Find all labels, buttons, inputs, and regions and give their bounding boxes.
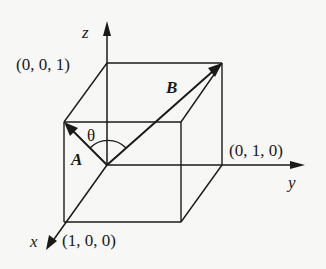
axes bbox=[46, 21, 305, 250]
point-label-z-unit: (0, 0, 1) bbox=[16, 55, 70, 74]
x-axis-label: x bbox=[29, 232, 38, 251]
z-axis-label: z bbox=[81, 23, 89, 42]
point-label-y-unit: (0, 1, 0) bbox=[229, 141, 283, 160]
angle-theta-arc bbox=[90, 140, 126, 148]
vector-b-label: B bbox=[165, 78, 177, 97]
cube-vector-diagram: z y x (0, 0, 1) (0, 1, 0) (1, 0, 0) A B … bbox=[0, 0, 326, 269]
z-axis-arrowhead-icon bbox=[103, 21, 111, 36]
y-axis-label: y bbox=[286, 173, 296, 192]
cube-edge-bottom-right bbox=[181, 165, 222, 222]
angle-theta-label: θ bbox=[87, 126, 95, 145]
vector-b bbox=[107, 63, 222, 165]
point-label-x-unit: (1, 0, 0) bbox=[62, 231, 116, 250]
cube-edge-top-left bbox=[64, 63, 107, 122]
vector-a-label: A bbox=[70, 150, 82, 169]
vector-b-shaft bbox=[107, 72, 212, 165]
y-axis-arrowhead-icon bbox=[290, 161, 305, 169]
